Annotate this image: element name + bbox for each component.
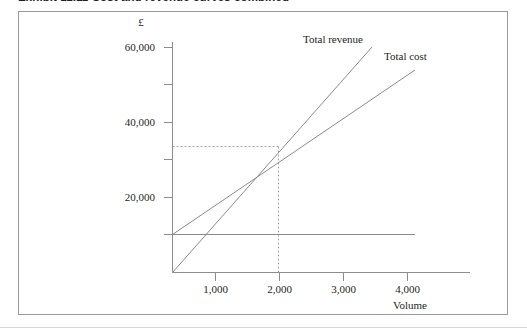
y-tick-label-40000: 40,000 xyxy=(125,116,156,128)
x-axis-title: Volume xyxy=(393,299,427,311)
figure-page: Exhibit 11.11 Cost and revenue curves co… xyxy=(0,0,527,334)
series-total-revenue xyxy=(173,47,373,273)
y-tick-label-20000: 20,000 xyxy=(125,191,156,203)
y-tick-label-60000: 60,000 xyxy=(125,41,156,53)
x-tick-label-1000: 1,000 xyxy=(203,283,228,295)
y-axis-unit: £ xyxy=(138,16,144,28)
x-tick-label-2000: 2,000 xyxy=(267,283,292,295)
annotation-total-revenue: Total revenue xyxy=(303,33,363,45)
x-tick-label-4000: 4,000 xyxy=(395,283,420,295)
annotation-total-cost: Total cost xyxy=(384,50,427,62)
x-tick-label-3000: 3,000 xyxy=(331,283,356,295)
chart-plot: £ 60,000 40,000 20,000 1,000 2,000 3,000… xyxy=(0,0,527,334)
series-total-cost xyxy=(173,70,416,235)
